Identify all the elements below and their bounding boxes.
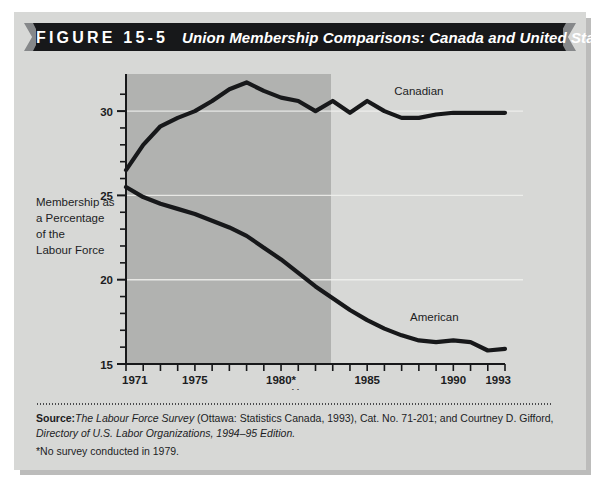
source-block: Source:The Labour Force Survey (Ottawa: … bbox=[36, 411, 561, 440]
figure-footnote: *No survey conducted in 1979. bbox=[36, 445, 179, 457]
x-tick-label: 1993 bbox=[485, 374, 511, 386]
source-line-1: Source:The Labour Force Survey (Ottawa: … bbox=[36, 411, 561, 426]
panel-shadow-right bbox=[586, 18, 591, 474]
y-axis-title-line: Membership as bbox=[36, 196, 115, 208]
y-axis-title-line: a Percentage bbox=[36, 212, 104, 224]
figure-title: Union Membership Comparisons: Canada and… bbox=[182, 29, 602, 46]
y-axis-title-line: of the bbox=[36, 228, 65, 240]
y-tick-label: 30 bbox=[100, 106, 113, 118]
source-title-italic: The Labour Force Survey bbox=[75, 412, 194, 424]
y-tick-label: 15 bbox=[100, 359, 113, 371]
x-tick-label: 1985 bbox=[354, 374, 380, 386]
x-tick-label: 1975 bbox=[182, 374, 208, 386]
series-label-canadian: Canadian bbox=[394, 85, 443, 97]
source-label: Source: bbox=[36, 412, 75, 424]
figure-number: FIGURE 15-5 bbox=[36, 29, 168, 47]
source-directory-italic: Directory of U.S. Labor Organizations, 1… bbox=[36, 427, 295, 439]
line-chart: 15202530197119751980*198519901993YearsMe… bbox=[14, 60, 586, 390]
source-line-2: Directory of U.S. Labor Organizations, 1… bbox=[36, 426, 561, 441]
panel-shadow-bottom bbox=[20, 470, 591, 475]
x-tick-label: 1971 bbox=[122, 374, 148, 386]
chart-area: 15202530197119751980*198519901993YearsMe… bbox=[14, 60, 586, 390]
source-rest: (Ottawa: Statistics Canada, 1993), Cat. … bbox=[194, 412, 553, 424]
plot-background-dark bbox=[126, 74, 331, 364]
y-tick-label: 20 bbox=[100, 274, 113, 286]
series-label-american: American bbox=[410, 311, 459, 323]
figure-root: FIGURE 15-5 Union Membership Comparisons… bbox=[0, 0, 602, 491]
x-tick-label: 1980* bbox=[266, 374, 297, 386]
x-axis-title: Years bbox=[292, 387, 320, 390]
source-divider bbox=[36, 403, 551, 405]
x-tick-label: 1990 bbox=[441, 374, 467, 386]
y-axis-title-line: Labour Force bbox=[36, 244, 104, 256]
